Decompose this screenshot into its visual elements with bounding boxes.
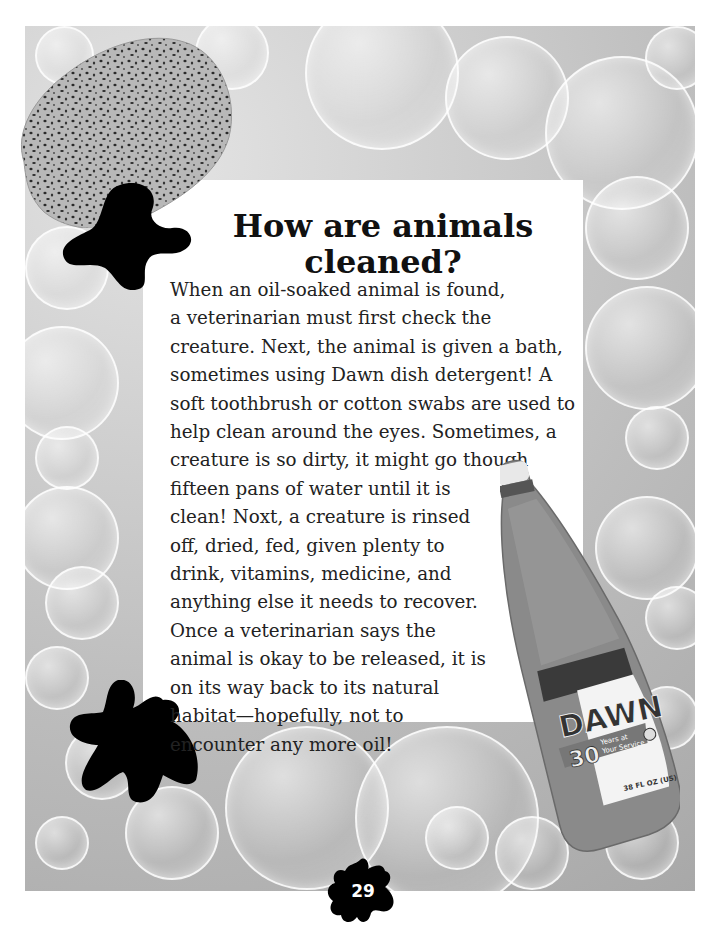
- bubble: [585, 286, 695, 410]
- bubble: [35, 426, 99, 490]
- bubble: [25, 326, 119, 440]
- dawn-bottle-image: DAWN 30 Years at Your Service 38 FL OZ (…: [500, 455, 680, 855]
- oil-blob-icon: [60, 180, 200, 290]
- body-line: creature. Next, the animal is given a ba…: [170, 333, 600, 361]
- body-line: help clean around the eyes. Sometimes, a: [170, 418, 600, 446]
- body-line: When an oil-soaked animal is found,: [170, 276, 600, 304]
- body-line: a veterinarian must first check the: [170, 304, 600, 332]
- page-number: 29: [343, 881, 383, 901]
- bubble: [45, 566, 119, 640]
- bubble: [35, 816, 89, 870]
- bubble: [305, 26, 459, 150]
- title-line-1: How are animals: [143, 208, 623, 244]
- body-line: soft toothbrush or cotton swabs are used…: [170, 390, 600, 418]
- body-line: sometimes using Dawn dish detergent! A: [170, 361, 600, 389]
- page-title: How are animals cleaned?: [143, 208, 623, 280]
- bubble: [425, 806, 489, 870]
- title-line-2: cleaned?: [143, 244, 623, 280]
